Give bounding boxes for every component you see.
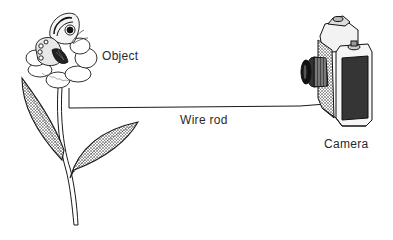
camera-label: Camera [324, 138, 368, 150]
right-leaf-icon [70, 122, 138, 178]
object-label: Object [102, 50, 138, 62]
slr-camera-icon [301, 16, 372, 126]
wire-rod-line [69, 88, 326, 108]
diagram-canvas: Object Wire rod Camera [0, 0, 393, 240]
wire-rod-label: Wire rod [180, 114, 228, 126]
